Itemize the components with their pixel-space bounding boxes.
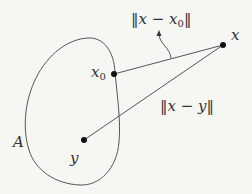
point-x0-subscript: 0 [99, 71, 105, 82]
norm-x-x0-close: ‖ [184, 10, 192, 28]
segment-x-y [84, 45, 223, 140]
point-x0 [111, 71, 117, 77]
point-x [220, 42, 226, 48]
set-a-label: A [13, 135, 24, 150]
point-x-text: x [231, 26, 239, 44]
segment-x-x0 [114, 45, 223, 74]
point-y-text: y [70, 149, 78, 167]
point-x0-label: x0 [91, 65, 106, 82]
norm-x-y-label: ‖x − y‖ [160, 99, 214, 114]
norm-x-x0-label: ‖x − x0‖ [131, 12, 191, 29]
norm-x-y-text: ‖x − y‖ [160, 97, 214, 115]
point-y [81, 137, 87, 143]
norm-x-x0-text: ‖x − x [131, 10, 178, 28]
distance-to-set-diagram: ‖x − x0‖ x x0 ‖x − y‖ A y [0, 0, 252, 194]
diagram-graphics [0, 0, 252, 194]
set-a-text: A [13, 133, 24, 151]
arrow-head-icon [157, 30, 162, 36]
point-x-label: x [231, 28, 239, 43]
pointer-arrow [159, 35, 171, 58]
point-y-label: y [70, 151, 78, 166]
